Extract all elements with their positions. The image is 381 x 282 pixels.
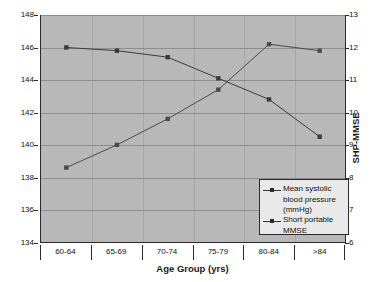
- y-axis-tick-mark: [34, 178, 38, 179]
- y-axis-tick-label: 140: [0, 141, 34, 149]
- y-axis-tick-mark: [34, 210, 38, 211]
- x-axis-tick-mark: [91, 245, 92, 260]
- chart-legend: Mean systolic blood pressure (mmHg) Shor…: [259, 179, 349, 235]
- x-axis-tick-mark: [294, 245, 295, 260]
- x-axis-edge-mark: [40, 245, 41, 260]
- x-axis-tick-label: >84: [294, 244, 345, 260]
- y-axis-tick-label: 144: [0, 76, 34, 84]
- x-axis-tick-label: 60-64: [40, 244, 91, 260]
- secondary-y-axis-tick-mark: [345, 243, 349, 244]
- y-axis-tick-label: 136: [0, 206, 34, 214]
- data-point-marker: [64, 165, 68, 169]
- secondary-y-axis-tick-label: 6: [349, 239, 375, 247]
- legend-marker-icon: [263, 185, 281, 195]
- data-point-marker: [165, 55, 169, 59]
- y-axis-tick-mark: [34, 145, 38, 146]
- y-axis-tick-mark: [34, 48, 38, 49]
- legend-label: Mean systolic blood pressure (mmHg): [283, 184, 349, 216]
- x-axis-tick-mark: [142, 245, 143, 260]
- x-axis-tick-label: 80-84: [243, 244, 294, 260]
- y-axis-tick-label: 146: [0, 44, 34, 52]
- x-axis-tick-mark: [243, 245, 244, 260]
- y-axis-tick-label: 148: [0, 11, 34, 19]
- chart-container: Mean systolic blood pressure (mmHg) SHP-…: [0, 0, 381, 282]
- series-line: [66, 47, 319, 136]
- x-axis-tick-mark: [193, 245, 194, 260]
- x-axis-edge-mark: [344, 245, 345, 260]
- legend-label: Short portable MMSE: [283, 215, 349, 236]
- y-axis-tick-mark: [34, 243, 38, 244]
- secondary-y-axis-tick-label: 12: [349, 44, 375, 52]
- data-point-marker: [216, 76, 220, 80]
- x-axis-title: Age Group (yrs): [40, 263, 345, 274]
- secondary-y-axis-tick-label: 10: [349, 109, 375, 117]
- data-point-marker: [115, 48, 119, 52]
- secondary-y-axis-tick-label: 7: [349, 206, 375, 214]
- secondary-y-axis-tick-label: 9: [349, 141, 375, 149]
- y-axis-tick-label: 138: [0, 174, 34, 182]
- secondary-y-axis-tick-label: 13: [349, 11, 375, 19]
- data-point-marker: [64, 45, 68, 49]
- legend-marker-icon: [263, 216, 281, 226]
- data-point-marker: [317, 135, 321, 139]
- x-axis-tick-label: 75-79: [193, 244, 244, 260]
- y-axis-tick-label: 134: [0, 239, 34, 247]
- data-point-marker: [267, 97, 271, 101]
- data-point-marker: [267, 42, 271, 46]
- series-line: [66, 44, 319, 167]
- y-axis-tick-label: 142: [0, 109, 34, 117]
- x-axis-tick-label: 65-69: [91, 244, 142, 260]
- data-point-marker: [165, 117, 169, 121]
- data-point-marker: [216, 87, 220, 91]
- y-axis-tick-mark: [34, 113, 38, 114]
- y-axis-tick-mark: [34, 80, 38, 81]
- x-axis-tick-label: 70-74: [142, 244, 193, 260]
- y-axis-tick-mark: [34, 15, 38, 16]
- secondary-y-axis-tick-label: 8: [349, 174, 375, 182]
- data-point-marker: [317, 48, 321, 52]
- x-axis-categories: 60-6465-6970-7475-7980-84>84: [40, 244, 345, 260]
- secondary-y-axis-tick-label: 11: [349, 76, 375, 84]
- data-point-marker: [115, 143, 119, 147]
